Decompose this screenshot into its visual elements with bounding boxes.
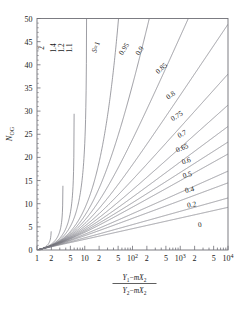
x-tick-label: 2 xyxy=(97,254,101,263)
y-tick-label: 50 xyxy=(25,15,33,24)
curve-label-0.2: 0.2 xyxy=(186,199,197,210)
y-tick-label: 35 xyxy=(25,84,33,93)
y-tick-label: 30 xyxy=(25,107,33,116)
x-tick-label: 102 xyxy=(127,253,138,263)
curve-label-0.75: 0.75 xyxy=(169,109,185,123)
x-tick-label: 2 xyxy=(145,254,149,263)
y-tick-label: 20 xyxy=(25,153,33,162)
x-axis-title-numerator: Y1−mX2 xyxy=(123,273,147,283)
y-tick-label: 5 xyxy=(29,223,33,232)
x-tick-label: 10 xyxy=(81,254,89,263)
x-tick-label: 5 xyxy=(212,254,216,263)
curve-label-0.6: 0.6 xyxy=(180,155,192,167)
y-tick-label: 15 xyxy=(25,177,33,186)
curve-S-1.1 xyxy=(37,0,87,250)
curve-label-0.65: 0.65 xyxy=(174,141,190,154)
curve-label-0.8: 0.8 xyxy=(164,88,177,101)
curve-S-0.7 xyxy=(37,126,228,250)
x-tick-label: 2 xyxy=(49,254,53,263)
curve-label-0.4: 0.4 xyxy=(184,184,195,195)
curve-S-0.85 xyxy=(37,24,228,250)
curve-label-2: 2 xyxy=(37,46,46,50)
curve-label-1.1: 1.1 xyxy=(65,43,74,52)
curve-label-0.95: 0.95 xyxy=(117,41,132,57)
y-axis-title: NOG xyxy=(4,126,15,142)
chart-canvas: 0510152025303540455012510251022510325104… xyxy=(0,0,244,311)
curve-label-0.5: 0.5 xyxy=(182,169,194,180)
curve-label-0.85: 0.85 xyxy=(154,60,170,75)
figure-colburn-absorption-chart: 0510152025303540455012510251022510325104… xyxy=(0,0,244,311)
x-tick-label: 5 xyxy=(68,254,72,263)
x-tick-label: 104 xyxy=(223,253,234,263)
curve-label-0.7: 0.7 xyxy=(176,128,188,140)
x-tick-label: 2 xyxy=(193,254,197,263)
x-tick-label: 5 xyxy=(164,254,168,263)
curve-label-S-1: S=1 xyxy=(89,40,101,54)
x-axis-title-denominator: Y2−mX2 xyxy=(123,286,147,296)
curve-S-0.95 xyxy=(37,0,156,250)
y-tick-label: 25 xyxy=(25,130,33,139)
curve-label-0.9: 0.9 xyxy=(133,44,146,57)
curve-label-0: 0 xyxy=(197,220,202,229)
x-tick-label: 5 xyxy=(116,254,120,263)
y-tick-label: 0 xyxy=(29,246,33,255)
y-tick-label: 10 xyxy=(25,200,33,209)
y-tick-label: 40 xyxy=(25,61,33,70)
x-tick-label: 103 xyxy=(175,253,186,263)
curve-S-0.6 xyxy=(37,154,228,250)
y-tick-label: 45 xyxy=(25,38,33,47)
x-tick-label: 1 xyxy=(35,254,39,263)
curve-S-S-1 xyxy=(37,0,121,250)
